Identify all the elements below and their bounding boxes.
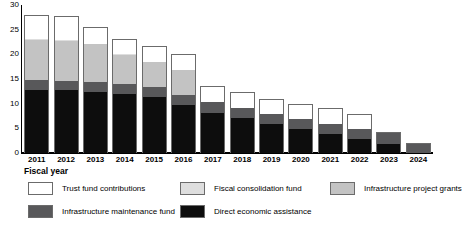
bar-segment-direct-economic-assistance <box>348 139 371 153</box>
bar-segment-direct-economic-assistance <box>319 134 342 153</box>
legend-label: Direct economic assistance <box>214 207 311 216</box>
bar-column-2021 <box>316 5 345 153</box>
y-axis-tick: 30 <box>10 1 19 9</box>
plot-area: 051015202530 <box>22 5 433 153</box>
x-axis-tick: 2024 <box>404 155 433 165</box>
legend-item-trust-fund-contributions[interactable]: Trust fund contributions <box>28 182 145 195</box>
x-axis-tick: 2017 <box>198 155 227 165</box>
bar-segment-trust-fund-contributions <box>289 105 312 119</box>
bar-stack <box>200 86 225 153</box>
bar-segment-infrastructure-maintenance-fund <box>407 144 430 153</box>
bar-segment-direct-economic-assistance <box>143 97 166 153</box>
bar-column-2017 <box>198 5 227 153</box>
legend-item-direct-economic-assistance[interactable]: Direct economic assistance <box>180 205 311 218</box>
bar-segment-infrastructure-maintenance-fund <box>55 81 78 90</box>
bar-segment-infrastructure-maintenance-fund <box>25 80 48 90</box>
x-axis-tick: 2011 <box>22 155 51 165</box>
bar-segment-trust-fund-contributions <box>172 55 195 69</box>
bar-column-2020 <box>286 5 315 153</box>
y-axis-tick: 0 <box>15 149 19 157</box>
bar-stack <box>142 46 167 153</box>
bar-stack <box>112 39 137 153</box>
bar-stack <box>406 143 431 153</box>
bar-segment-direct-economic-assistance <box>377 144 400 153</box>
legend-label: Fiscal consolidation fund <box>214 184 302 193</box>
bar-stack <box>376 132 401 153</box>
legend-swatch-icon <box>28 205 53 218</box>
bar-segment-direct-economic-assistance <box>55 90 78 153</box>
legend-swatch-icon <box>330 182 355 195</box>
chart-legend: Trust fund contributionsFiscal consolida… <box>0 182 443 228</box>
bar-segment-infrastructure-project-grants <box>143 62 166 87</box>
bar-segment-infrastructure-maintenance-fund <box>319 124 342 134</box>
legend-swatch-icon <box>180 182 205 195</box>
bar-segment-direct-economic-assistance <box>113 94 136 153</box>
bar-segment-infrastructure-maintenance-fund <box>289 119 312 129</box>
bar-stack <box>318 108 343 153</box>
bar-column-2014 <box>110 5 139 153</box>
x-axis-tick: 2014 <box>110 155 139 165</box>
legend-label: Infrastructure maintenance fund <box>62 207 175 216</box>
legend-item-infrastructure-maintenance-fund[interactable]: Infrastructure maintenance fund <box>28 205 175 218</box>
bar-segment-infrastructure-maintenance-fund <box>172 95 195 105</box>
bar-stack <box>230 92 255 153</box>
bar-segment-infrastructure-maintenance-fund <box>143 87 166 97</box>
bar-column-2011 <box>22 5 51 153</box>
y-axis-tick: 5 <box>15 124 19 132</box>
bar-segment-infrastructure-maintenance-fund <box>231 108 254 118</box>
bar-segment-trust-fund-contributions <box>231 93 254 108</box>
y-axis-tick: 25 <box>10 26 19 34</box>
legend-label: Trust fund contributions <box>62 184 145 193</box>
x-axis-tick: 2015 <box>139 155 168 165</box>
y-axis-tick: 15 <box>10 75 19 83</box>
bar-segment-trust-fund-contributions <box>55 17 78 40</box>
bar-segment-direct-economic-assistance <box>260 124 283 153</box>
x-axis-tick: 2018 <box>228 155 257 165</box>
legend-row: Trust fund contributionsFiscal consolida… <box>0 182 443 198</box>
bar-segment-infrastructure-maintenance-fund <box>377 133 400 144</box>
bar-segment-direct-economic-assistance <box>289 129 312 153</box>
legend-swatch-icon <box>180 205 205 218</box>
bar-stack <box>259 99 284 153</box>
x-axis-tick-labels: 2011201220132014201520162017201820192020… <box>22 155 433 165</box>
bar-column-2024 <box>404 5 433 153</box>
y-axis-tick: 10 <box>10 100 19 108</box>
bar-segment-infrastructure-project-grants <box>172 70 195 95</box>
bar-stack <box>83 27 108 153</box>
bar-segment-trust-fund-contributions <box>319 109 342 124</box>
bar-stack <box>171 54 196 153</box>
x-axis-tick: 2020 <box>286 155 315 165</box>
bar-segment-trust-fund-contributions <box>84 28 107 44</box>
bar-segment-infrastructure-project-grants <box>113 55 136 85</box>
x-axis-tick: 2021 <box>316 155 345 165</box>
bar-segment-infrastructure-maintenance-fund <box>260 114 283 124</box>
legend-row: Infrastructure maintenance fundDirect ec… <box>0 205 443 221</box>
bar-column-2015 <box>139 5 168 153</box>
bar-segment-direct-economic-assistance <box>25 90 48 153</box>
bar-segment-infrastructure-project-grants <box>55 41 78 81</box>
bar-segment-trust-fund-contributions <box>348 115 371 130</box>
bar-segment-infrastructure-maintenance-fund <box>201 102 224 113</box>
bar-segment-direct-economic-assistance <box>201 113 224 153</box>
legend-item-fiscal-consolidation-fund[interactable]: Fiscal consolidation fund <box>180 182 302 195</box>
bar-segment-infrastructure-maintenance-fund <box>113 84 136 94</box>
bar-segment-trust-fund-contributions <box>113 40 136 54</box>
bar-column-2013 <box>81 5 110 153</box>
legend-item-infrastructure-project-grants[interactable]: Infrastructure project grants <box>330 182 462 195</box>
bar-segment-direct-economic-assistance <box>172 105 195 153</box>
bar-stack <box>347 114 372 153</box>
bar-stack <box>24 15 49 153</box>
x-axis-tick: 2013 <box>81 155 110 165</box>
legend-label: Infrastructure project grants <box>364 184 462 193</box>
bar-stack <box>54 16 79 153</box>
bar-segment-trust-fund-contributions <box>143 47 166 61</box>
bar-segment-infrastructure-maintenance-fund <box>348 129 371 139</box>
bar-stack <box>288 104 313 153</box>
x-axis-title: Fiscal year <box>24 166 68 176</box>
bar-segment-infrastructure-project-grants <box>25 40 48 80</box>
bar-column-2012 <box>51 5 80 153</box>
x-axis-tick: 2019 <box>257 155 286 165</box>
x-axis-tick: 2022 <box>345 155 374 165</box>
bar-column-2018 <box>228 5 257 153</box>
